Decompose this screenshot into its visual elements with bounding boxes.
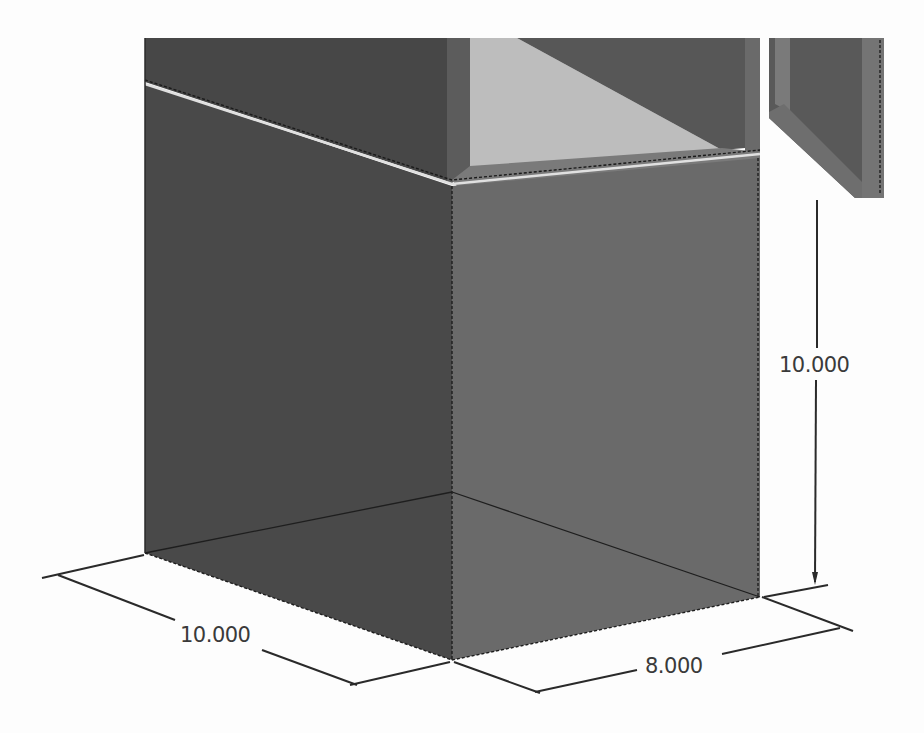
height-extension-line <box>764 585 828 597</box>
height-dimension-label: 10.000 <box>779 353 849 377</box>
door-frame-inner <box>775 38 790 112</box>
width-dim-line-a <box>58 575 175 620</box>
height-arrow-icon <box>812 572 818 585</box>
upper-cabinet-right-frame <box>745 38 760 160</box>
upper-cabinet-left-frame <box>447 38 470 183</box>
height-dim-line-bottom <box>815 380 816 582</box>
width-dimension-label: 10.000 <box>180 623 250 647</box>
base-left-face <box>145 84 452 660</box>
depth-extension-right <box>762 597 853 631</box>
depth-dim-line-a <box>535 670 637 692</box>
cad-canvas: 10.000 10.000 8.000 <box>0 0 924 733</box>
width-extension-top <box>42 555 144 578</box>
width-extension-bottom <box>350 662 450 685</box>
depth-dim-line-b <box>722 628 840 654</box>
depth-extension-left <box>454 662 540 693</box>
base-right-face <box>452 158 760 660</box>
width-dim-line-b <box>262 650 357 685</box>
depth-dimension-label: 8.000 <box>645 654 703 678</box>
